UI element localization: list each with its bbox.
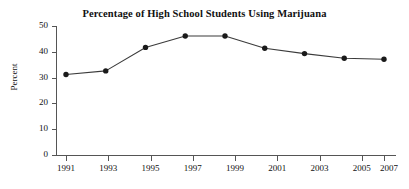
x-tick-mark — [235, 156, 236, 161]
x-tick-mark — [320, 156, 321, 161]
x-tick-label-2007: 2007 — [369, 163, 409, 173]
data-point-1991 — [63, 72, 68, 77]
data-point-2007 — [381, 57, 386, 62]
x-tick-mark — [108, 156, 109, 161]
x-tick-mark — [277, 156, 278, 161]
chart-figure: Percentage of High School Students Using… — [0, 0, 409, 189]
data-point-2005 — [342, 56, 347, 61]
y-tick-mark — [52, 129, 57, 130]
x-tick-mark — [66, 156, 67, 161]
x-tick-mark — [362, 156, 363, 161]
y-tick-label-0: 0 — [22, 149, 48, 159]
x-tick-label-1995: 1995 — [131, 163, 171, 173]
series-line — [66, 36, 384, 74]
y-tick-label-10: 10 — [22, 123, 48, 133]
y-tick-mark — [52, 103, 57, 104]
x-tick-label-2003: 2003 — [300, 163, 340, 173]
data-point-1993 — [103, 68, 108, 73]
y-tick-mark — [52, 52, 57, 53]
x-tick-label-1991: 1991 — [46, 163, 86, 173]
data-point-1995 — [143, 45, 148, 50]
x-tick-label-2001: 2001 — [257, 163, 297, 173]
data-point-2003 — [302, 51, 307, 56]
data-point-2001 — [262, 45, 267, 50]
y-tick-label-50: 50 — [22, 20, 48, 30]
series-markers — [63, 33, 386, 77]
data-point-1999 — [222, 33, 227, 38]
x-tick-mark — [384, 156, 385, 161]
x-axis-line — [56, 155, 396, 156]
x-tick-mark — [193, 156, 194, 161]
chart-title: Percentage of High School Students Using… — [0, 8, 409, 19]
y-tick-mark — [52, 26, 57, 27]
series-plot — [0, 0, 409, 189]
y-axis-line — [56, 26, 57, 156]
data-point-1997 — [183, 33, 188, 38]
y-tick-mark — [52, 155, 57, 156]
x-tick-mark — [151, 156, 152, 161]
y-tick-mark — [52, 78, 57, 79]
x-tick-label-1997: 1997 — [173, 163, 213, 173]
x-tick-label-1993: 1993 — [88, 163, 128, 173]
y-axis-title: Percent — [9, 42, 19, 112]
y-tick-label-30: 30 — [22, 72, 48, 82]
y-tick-label-20: 20 — [22, 97, 48, 107]
y-tick-label-40: 40 — [22, 46, 48, 56]
x-tick-label-1999: 1999 — [215, 163, 255, 173]
